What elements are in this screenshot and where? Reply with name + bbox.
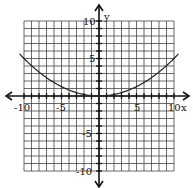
x-tick-label-neg5: -5 [56,102,66,113]
coordinate-plane: -10 -5 5 10 x 10 5 -5 -10 y [0,0,193,188]
y-tick-label-10: 10 [83,16,96,27]
y-axis-label: y [103,11,110,22]
x-tick-label-10: 10 [168,102,181,113]
x-axis-label: x [181,102,187,113]
y-tick-label-neg5: -5 [82,128,92,139]
y-tick-label-5: 5 [89,53,95,64]
x-tick-label-5: 5 [134,102,140,113]
x-tick-label-neg10: -10 [14,102,30,113]
y-tick-label-neg10: -10 [76,166,92,177]
